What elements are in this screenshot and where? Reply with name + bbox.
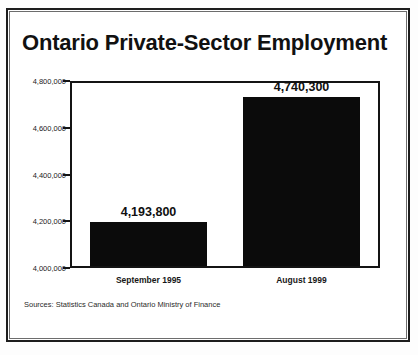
y-tick-label-4200000: 4,200,000	[14, 217, 66, 226]
chart-title: Ontario Private-Sector Employment	[22, 26, 392, 60]
bar-value-label-august-1999: 4,740,300	[274, 80, 330, 94]
y-tick-mark-4000000	[63, 267, 70, 269]
y-tick-mark-4800000	[63, 80, 70, 82]
y-tick-label-4600000: 4,600,000	[14, 123, 66, 132]
y-tick-mark-4400000	[63, 174, 70, 176]
bar-august-1999	[243, 97, 360, 266]
y-tick-label-4000000: 4,000,000	[14, 264, 66, 273]
bar-september-1995	[90, 222, 207, 266]
source-note: Sources: Statistics Canada and Ontario M…	[24, 300, 220, 309]
chart-figure: Ontario Private-Sector Employment 4,800,…	[0, 0, 418, 355]
y-tick-label-4800000: 4,800,000	[14, 77, 66, 86]
y-tick-label-4400000: 4,400,000	[14, 170, 66, 179]
category-label-september-1995: September 1995	[116, 275, 181, 285]
bar-value-label-september-1995: 4,193,800	[121, 205, 177, 219]
y-tick-mark-4600000	[63, 127, 70, 129]
plot-area	[70, 81, 380, 268]
y-tick-mark-4200000	[63, 220, 70, 222]
category-label-august-1999: August 1999	[276, 275, 327, 285]
